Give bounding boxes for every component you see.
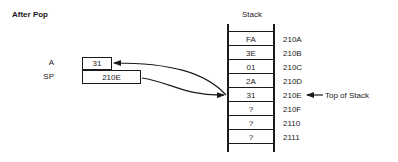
arrow-sp-to-stack-icon	[142, 78, 224, 95]
arrows-layer	[0, 0, 398, 162]
arrow-pop-to-a-icon	[114, 63, 226, 95]
